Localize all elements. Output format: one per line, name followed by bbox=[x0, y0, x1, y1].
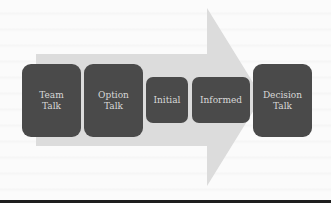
step-label: Informed bbox=[200, 95, 242, 106]
bottom-border bbox=[0, 200, 331, 203]
step-label: Option Talk bbox=[94, 90, 134, 112]
step-label: Decision Talk bbox=[258, 90, 308, 112]
step-decision-talk: Decision Talk bbox=[253, 64, 312, 137]
step-informed: Informed bbox=[192, 77, 250, 123]
step-option-talk: Option Talk bbox=[84, 64, 143, 137]
step-team-talk: Team Talk bbox=[22, 64, 81, 137]
step-label: Initial bbox=[154, 95, 181, 106]
step-label: Team Talk bbox=[35, 90, 69, 112]
step-initial: Initial bbox=[146, 77, 188, 123]
